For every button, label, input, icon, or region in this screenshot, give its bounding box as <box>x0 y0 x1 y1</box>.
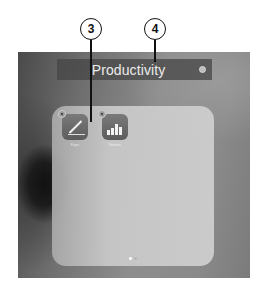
pen-icon <box>69 120 82 133</box>
app-label: Numbers <box>101 143 129 147</box>
page-dot-active <box>129 257 132 260</box>
folder-name-field[interactable]: Productivity <box>57 59 212 80</box>
callout-3: 3 <box>80 18 102 40</box>
callout-3-leader-line <box>90 40 92 122</box>
folder-panel: Pages Numbers <box>52 106 214 266</box>
app-pages[interactable]: Pages <box>61 114 89 147</box>
callout-4: 4 <box>144 18 166 40</box>
ipad-home-screen: Productivity Pages Numbers <box>18 52 250 278</box>
delete-app-icon[interactable] <box>98 110 106 118</box>
delete-app-icon[interactable] <box>58 110 66 118</box>
page-dot <box>134 257 137 260</box>
baseline-decoration <box>68 134 85 135</box>
pages-icon[interactable] <box>62 114 88 140</box>
clear-text-icon[interactable] <box>199 66 206 73</box>
callout-4-leader-line <box>154 40 156 62</box>
page-indicator[interactable] <box>52 257 214 260</box>
folder-title[interactable]: Productivity <box>92 62 166 78</box>
bar-chart-icon <box>107 124 122 135</box>
callout-number: 3 <box>88 22 95 36</box>
app-label: Pages <box>61 143 89 147</box>
app-numbers[interactable]: Numbers <box>101 114 129 147</box>
callout-number: 4 <box>152 22 159 36</box>
numbers-icon[interactable] <box>102 114 128 140</box>
